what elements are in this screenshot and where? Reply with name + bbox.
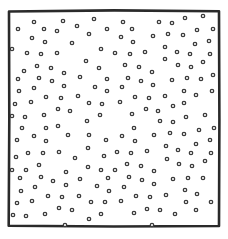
dot xyxy=(102,154,105,157)
dot xyxy=(103,200,106,203)
dot xyxy=(119,35,122,38)
dot xyxy=(76,94,79,97)
dot xyxy=(130,27,133,30)
dot xyxy=(87,32,90,35)
dot xyxy=(201,14,204,17)
dot xyxy=(164,193,167,196)
dot xyxy=(144,107,147,110)
dot xyxy=(134,194,137,197)
dot xyxy=(170,78,173,81)
dot xyxy=(148,195,151,198)
dot xyxy=(157,20,160,23)
dot xyxy=(128,52,131,55)
dot xyxy=(105,27,108,30)
dot xyxy=(55,29,58,32)
dot xyxy=(147,96,150,99)
dot xyxy=(63,223,66,226)
dot xyxy=(132,126,135,129)
dot xyxy=(152,133,155,136)
dot xyxy=(26,151,29,154)
dot xyxy=(203,159,206,162)
dot xyxy=(89,200,92,203)
dot xyxy=(42,113,45,116)
dot xyxy=(211,73,214,76)
dot xyxy=(85,119,88,122)
dot xyxy=(99,168,102,171)
dot xyxy=(119,199,122,202)
dot-scatter xyxy=(10,14,215,226)
dot xyxy=(23,115,26,118)
dot xyxy=(152,169,155,172)
dot xyxy=(44,95,47,98)
dot xyxy=(25,51,28,54)
dot xyxy=(46,194,49,197)
dot xyxy=(78,75,81,78)
dot xyxy=(60,195,63,198)
dot xyxy=(77,194,80,197)
dot xyxy=(17,89,20,92)
dot xyxy=(143,50,146,53)
dot xyxy=(193,42,196,45)
dot xyxy=(35,64,38,67)
dot xyxy=(182,101,185,104)
dot xyxy=(195,192,198,195)
dot xyxy=(209,200,212,203)
dot xyxy=(10,114,13,117)
dot xyxy=(113,51,116,54)
dot xyxy=(151,34,154,37)
dot xyxy=(10,168,13,171)
dot xyxy=(93,85,96,88)
dot xyxy=(100,102,103,105)
dot xyxy=(118,100,121,103)
dot xyxy=(24,168,27,171)
dot xyxy=(99,212,102,215)
dot xyxy=(208,138,211,141)
dot xyxy=(145,207,148,210)
dot xyxy=(158,119,161,122)
dot xyxy=(158,208,161,211)
dot xyxy=(37,163,40,166)
dot xyxy=(185,76,188,79)
dot xyxy=(43,212,46,215)
dot xyxy=(203,113,206,116)
dot xyxy=(51,179,54,182)
dot xyxy=(209,151,212,154)
dot xyxy=(61,19,64,22)
dot xyxy=(50,79,53,82)
dot xyxy=(122,185,125,188)
dot xyxy=(165,157,168,160)
dot xyxy=(189,65,192,68)
dot xyxy=(171,104,174,107)
dot xyxy=(199,77,202,80)
dot xyxy=(18,176,21,179)
dot xyxy=(120,134,123,137)
dot xyxy=(137,65,140,68)
dot xyxy=(86,146,89,149)
dot xyxy=(68,109,71,112)
dot xyxy=(145,149,148,152)
dot xyxy=(195,28,198,31)
dot xyxy=(140,178,143,181)
dot xyxy=(44,139,47,142)
dot xyxy=(132,211,135,214)
dot xyxy=(87,217,90,220)
dot-field-diagram xyxy=(0,0,228,239)
dot xyxy=(120,85,123,88)
dot xyxy=(173,212,176,215)
dot xyxy=(194,142,197,145)
dot xyxy=(105,77,108,80)
dot xyxy=(152,182,155,185)
dot xyxy=(73,156,76,159)
dot xyxy=(121,20,124,23)
dot xyxy=(56,124,59,127)
dot xyxy=(32,86,35,89)
dot xyxy=(127,175,130,178)
diagram-canvas xyxy=(0,0,228,239)
dot xyxy=(150,70,153,73)
dot xyxy=(64,183,67,186)
dot xyxy=(86,165,89,168)
dot xyxy=(176,63,179,66)
dot xyxy=(59,96,62,99)
dot xyxy=(37,76,40,79)
dot xyxy=(115,150,118,153)
